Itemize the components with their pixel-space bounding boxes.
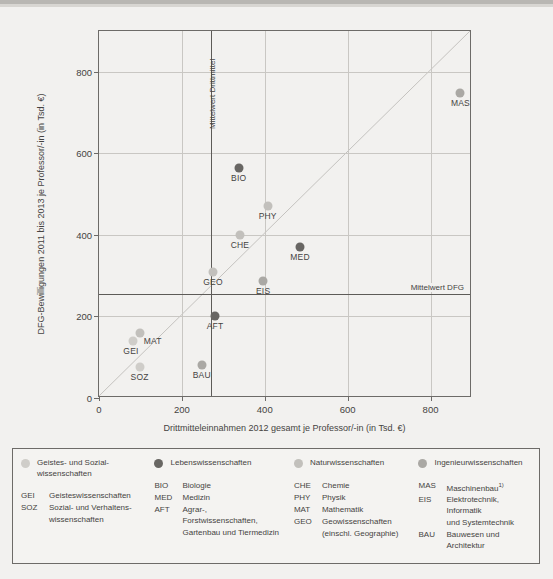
legend-entry-code: MAT: [294, 504, 316, 515]
data-point-bio[interactable]: [234, 164, 243, 173]
data-point-label-geo: GEO: [203, 277, 223, 287]
data-point-label-aft: AFT: [207, 321, 224, 331]
x-axis-tick-label: 400: [257, 404, 273, 415]
data-point-label-phy: PHY: [259, 211, 277, 221]
data-point-label-bio: BIO: [231, 173, 246, 183]
x-axis-tick-mark: [182, 396, 183, 401]
data-point-label-mas: MAS: [451, 98, 470, 108]
y-gridline: [99, 316, 470, 317]
legend-column-2: LebenswissenschaftenBIOBiologieMEDMedizi…: [146, 458, 285, 563]
data-point-label-eis: EIS: [256, 286, 270, 296]
data-point-label-mat: MAT: [144, 336, 162, 346]
legend-entry-name: (einschl. Geographie): [322, 528, 398, 539]
legend-entry: EISElektrotechnik, Informatik: [418, 494, 535, 516]
x-axis-tick-mark: [431, 396, 432, 401]
y-axis-tick-mark: [94, 72, 99, 73]
legend-entry-code: [418, 517, 440, 528]
legend-group-header: Naturwissenschaften: [294, 458, 407, 469]
y-gridline: [99, 235, 470, 236]
y-axis-tick-label: 0: [87, 393, 92, 404]
legend-entry-name: Chemie: [322, 480, 350, 491]
legend-entry: MEDMedizin: [154, 492, 281, 503]
legend-entry: AFTAgrar-, Forstwissenschaften,: [154, 504, 281, 526]
legend-entry-code: BIO: [154, 480, 176, 491]
x-gridline: [348, 31, 349, 396]
legend-entry: und Systemtechnik: [418, 517, 535, 528]
footnote-marker: 1): [499, 482, 504, 488]
y-axis-label: DFG-Bewilligungen 2011 bis 2013 je Profe…: [34, 30, 48, 397]
data-point-aft[interactable]: [211, 312, 220, 321]
y-axis-tick-mark: [94, 235, 99, 236]
data-point-mas[interactable]: [456, 88, 465, 97]
x-axis-tick-mark: [265, 396, 266, 401]
y-axis-tick-label: 800: [76, 66, 92, 77]
x-gridline: [182, 31, 183, 396]
legend-color-dot-icon: [294, 459, 303, 468]
data-point-che[interactable]: [235, 230, 244, 239]
legend-entry-name: wissenschaften: [49, 514, 104, 525]
legend-entry-code: [294, 528, 316, 539]
x-axis-tick-label: 800: [423, 404, 439, 415]
legend-entry: CHEChemie: [294, 480, 407, 491]
data-point-gei[interactable]: [128, 336, 137, 345]
x-axis-tick-mark: [99, 396, 100, 401]
legend-entry-name: Mathematik: [322, 504, 363, 515]
legend-entry-code: PHY: [294, 492, 316, 503]
mean-line-dfg-label: Mittelwert DFG: [409, 283, 466, 292]
legend-entry-code: [21, 514, 43, 525]
legend-entry-code: MED: [154, 492, 176, 503]
legend-entry: wissenschaften: [21, 514, 142, 525]
legend-group-header: Geistes- und Sozial-wissenschaften: [21, 458, 142, 479]
x-axis-tick-label: 0: [96, 404, 101, 415]
legend-entry-code: GEO: [294, 516, 316, 527]
data-point-label-bau: BAU: [193, 370, 211, 380]
plot-area: 02004006008000200400600800Mittelwert Dri…: [98, 30, 471, 397]
legend-entry-code: MAS: [418, 480, 440, 494]
legend-entry-name: Medizin: [182, 492, 210, 503]
legend-entry-code: SOZ: [21, 502, 43, 513]
y-axis-label-text: DFG-Bewilligungen 2011 bis 2013 je Profe…: [36, 93, 46, 334]
data-point-med[interactable]: [296, 243, 305, 252]
mean-line-drittmittel-label: Mittelwert Drittmittel: [208, 59, 217, 129]
legend-entry-name: Sozial- und Verhaltens-: [49, 502, 132, 513]
legend-entry-name: Agrar-, Forstwissenschaften,: [182, 504, 281, 526]
data-point-bau[interactable]: [197, 361, 206, 370]
x-axis-tick-mark: [348, 396, 349, 401]
scatter-chart: DFG-Bewilligungen 2011 bis 2013 je Profe…: [0, 8, 553, 438]
data-point-phy[interactable]: [263, 202, 272, 211]
legend-entry: SOZSozial- und Verhaltens-: [21, 502, 142, 513]
legend-entry-code: CHE: [294, 480, 316, 491]
legend-color-dot-icon: [21, 459, 30, 468]
y-gridline: [99, 153, 470, 154]
legend-entry: BAUBauwesen und Architektur: [418, 529, 535, 551]
legend-entry-code: AFT: [154, 504, 176, 526]
y-gridline: [99, 72, 470, 73]
y-axis-tick-label: 200: [76, 311, 92, 322]
legend-entry-name: Physik: [322, 492, 346, 503]
legend-entry: GEOGeowissenschaften: [294, 516, 407, 527]
data-point-label-che: CHE: [231, 240, 250, 250]
data-point-eis[interactable]: [259, 276, 268, 285]
mean-line-dfg: [99, 294, 470, 295]
legend-group-title: Lebenswissenschaften: [170, 458, 251, 469]
legend-entry: MATMathematik: [294, 504, 407, 515]
y-axis-tick-mark: [94, 316, 99, 317]
x-axis-label: Drittmitteleinnahmen 2012 gesamt je Prof…: [98, 423, 471, 433]
chart-legend: Geistes- und Sozial-wissenschaftenGEIGei…: [12, 448, 540, 564]
legend-entry-code: EIS: [418, 494, 440, 516]
legend-entry: PHYPhysik: [294, 492, 407, 503]
legend-group-header: Lebenswissenschaften: [154, 458, 281, 469]
legend-entry-name: Maschinenbau1): [446, 480, 503, 494]
legend-group-title: Ingenieurwissenschaften: [434, 458, 522, 469]
data-point-label-gei: GEI: [123, 346, 138, 356]
legend-entry: Gartenbau und Tiermedizin: [154, 527, 281, 538]
x-gridline: [431, 31, 432, 396]
legend-entry-code: [154, 527, 176, 538]
legend-group-title: Naturwissenschaften: [310, 458, 384, 469]
data-point-geo[interactable]: [208, 267, 217, 276]
legend-entry-name: Geisteswissenschaften: [49, 490, 131, 501]
legend-group-title: Geistes- und Sozial-wissenschaften: [37, 458, 109, 479]
data-point-soz[interactable]: [135, 363, 144, 372]
page-top-rule-secondary: [0, 4, 553, 7]
y-axis-tick-label: 600: [76, 148, 92, 159]
